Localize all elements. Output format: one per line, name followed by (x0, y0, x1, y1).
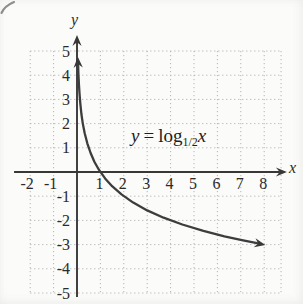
y-tick-label: -2 (57, 212, 70, 229)
y-tick-label: 1 (62, 139, 70, 156)
x-tick-label: 5 (189, 175, 197, 192)
y-tick-label: -1 (57, 188, 70, 205)
equation-annotation: y=log1/2x (131, 125, 206, 148)
equation-lhs: y (131, 125, 139, 146)
y-tick-label: 4 (62, 67, 70, 84)
x-tick-label: 1 (95, 175, 103, 192)
x-tick-label: 2 (119, 175, 127, 192)
equation-base-subscript: 1/2 (182, 135, 197, 149)
x-tick-label: 8 (259, 175, 267, 192)
y-axis-label: y (71, 12, 78, 28)
y-tick-label: -5 (57, 285, 70, 302)
x-tick-label: -1 (44, 175, 57, 192)
equation-equals: = (143, 125, 154, 146)
x-tick-label: 7 (236, 175, 244, 192)
y-tick-label: 2 (62, 115, 70, 132)
y-tick-label: 3 (62, 91, 70, 108)
x-tick-label: -2 (21, 175, 34, 192)
equation-argument: x (198, 125, 206, 146)
log-half-function-graph: -2-11234567854321-1-2-3-4-5 (0, 0, 303, 304)
graph-page: -2-11234567854321-1-2-3-4-5 y x y=log1/2… (0, 0, 303, 304)
log-curve-path (78, 64, 259, 244)
x-tick-label: 3 (142, 175, 150, 192)
corner-pen-mark-icon (2, 2, 15, 13)
x-axis-label: x (289, 160, 296, 176)
y-tick-label: 5 (62, 43, 70, 60)
y-tick-label: -3 (57, 236, 70, 253)
x-tick-label: 6 (212, 175, 220, 192)
y-tick-label: -4 (57, 260, 70, 277)
axes (14, 35, 287, 297)
x-tick-label: 4 (166, 175, 174, 192)
equation-function: log (158, 125, 182, 146)
log-curve (74, 57, 266, 248)
